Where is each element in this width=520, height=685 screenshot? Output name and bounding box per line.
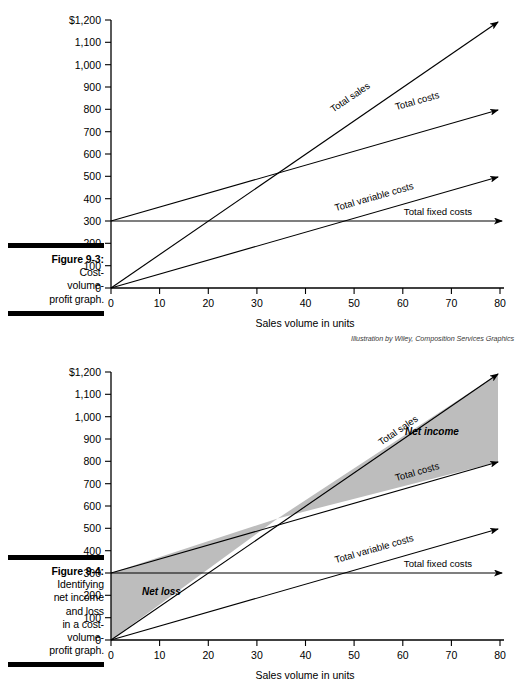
y-axis-ticks [105,372,111,640]
figure-9-3-caption-line-1: Cost- [8,266,104,279]
y-tick-1000: 1,000 [75,59,101,71]
y-tick-500: 500 [83,522,101,534]
x-tick-0: 0 [108,649,114,661]
x-tick-80: 80 [494,297,506,309]
figure-9-4-caption: Figure 9-4: Identifying net income and l… [8,555,104,667]
y-tick-1200: $1,200 [69,366,101,378]
series-line-total-costs [111,462,498,573]
figure-9-4-label: Figure 9-4: [8,565,104,578]
figure-9-4-caption-line-2: net income [8,591,104,604]
x-tick-20: 20 [202,297,214,309]
y-tick-900: 900 [83,81,101,93]
series-label-total-variable-costs: Total variable costs [333,532,415,565]
y-tick-800: 800 [83,455,101,467]
figure-9-3-caption-line-2: volume- [8,279,104,292]
net-income-region [278,374,498,518]
series-label-total-variable-costs: Total variable costs [333,180,415,213]
series-line-total-sales [111,374,498,640]
x-tick-30: 30 [251,297,263,309]
y-tick-700: 700 [83,126,101,138]
y-tick-500: 500 [83,170,101,182]
x-tick-70: 70 [446,297,458,309]
figure-9-3-credit: Illustration by Wiley, Composition Servi… [351,334,514,343]
series-lines [111,22,502,288]
y-tick-800: 800 [83,103,101,115]
figure-9-4-caption-line-3: and loss [8,605,104,618]
y-tick-400: 400 [83,193,101,205]
x-tick-50: 50 [348,649,360,661]
x-axis-title: Sales volume in units [255,669,354,681]
series-labels: Total sales Total costs Total variable c… [328,80,472,217]
x-axis-tick-labels: 0 10 20 30 40 50 60 70 80 [108,649,506,661]
x-tick-0: 0 [108,297,114,309]
figure-9-3-caption: Figure 9-3: Cost- volume- profit graph. [8,243,104,316]
x-axis-ticks [111,288,500,294]
series-line-total-costs [111,110,498,221]
x-tick-60: 60 [397,297,409,309]
caption-rule-top [8,555,104,560]
y-tick-1100: 1,100 [75,36,101,48]
y-tick-300: 300 [83,215,101,227]
x-tick-70: 70 [446,649,458,661]
x-tick-20: 20 [202,649,214,661]
y-tick-1100: 1,100 [75,388,101,400]
series-line-total-sales [111,22,498,288]
caption-rule-top [8,243,104,248]
figure-9-3-caption-line-3: profit graph. [8,293,104,306]
figure-9-4-block: $1,200 1,100 1,000 900 800 700 600 500 4… [0,352,520,685]
x-axis-ticks [111,640,500,646]
figure-9-4-caption-line-5: volume- [8,631,104,644]
x-tick-50: 50 [348,297,360,309]
series-label-total-fixed-costs: Total fixed costs [404,206,472,217]
caption-rule-bottom [8,311,104,316]
y-tick-600: 600 [83,500,101,512]
y-tick-1200: $1,200 [69,14,101,26]
x-tick-10: 10 [154,297,166,309]
x-tick-40: 40 [300,649,312,661]
x-tick-60: 60 [397,649,409,661]
figure-9-3-block: $1,200 1,100 1,000 900 800 700 600 500 4… [0,0,520,352]
y-tick-1000: 1,000 [75,411,101,423]
series-label-total-fixed-costs: Total fixed costs [404,558,472,569]
caption-rule-bottom [8,662,104,667]
x-tick-30: 30 [251,649,263,661]
region-label-net-income: Net income [405,426,459,437]
figure-9-4-caption-line-6: profit graph. [8,644,104,657]
series-line-total-variable-costs [111,177,498,288]
y-axis-ticks [105,20,111,288]
series-label-total-costs: Total costs [394,89,441,112]
x-tick-10: 10 [154,649,166,661]
figure-9-4-caption-line-4: in a cost- [8,618,104,631]
figure-9-3-label: Figure 9-3: [8,253,104,266]
x-tick-40: 40 [300,297,312,309]
x-axis-title: Sales volume in units [255,317,354,329]
series-label-total-sales: Total sales [328,80,372,115]
net-loss-region [111,518,278,640]
region-label-net-loss: Net loss [142,586,181,597]
x-axis-tick-labels: 0 10 20 30 40 50 60 70 80 [108,297,506,309]
x-tick-80: 80 [494,649,506,661]
y-tick-700: 700 [83,478,101,490]
y-tick-900: 900 [83,433,101,445]
figure-9-4-caption-line-1: Identifying [8,578,104,591]
y-tick-600: 600 [83,148,101,160]
